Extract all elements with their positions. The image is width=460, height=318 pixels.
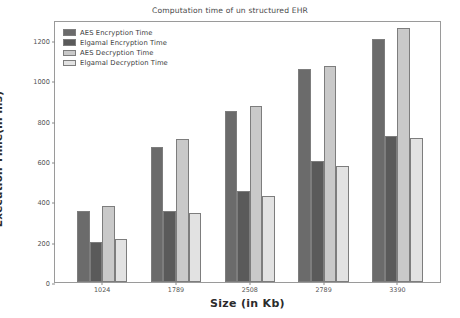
bar (77, 211, 90, 282)
x-tick-mark (102, 282, 103, 285)
legend-swatch-icon (63, 50, 76, 57)
legend-label: Elgamal Encryption Time (80, 39, 167, 47)
legend-item[interactable]: AES Encryption Time (63, 28, 168, 37)
y-tick-label: 0 (46, 280, 50, 288)
bar (385, 136, 398, 282)
y-tick-label: 400 (37, 199, 50, 207)
x-tick-mark (249, 282, 250, 285)
y-tick-mark (52, 42, 55, 43)
legend-item[interactable]: Elgamal Encryption Time (63, 38, 168, 47)
bar (90, 242, 103, 282)
legend-item[interactable]: AES Decryption Time (63, 48, 168, 57)
bar (102, 206, 115, 282)
bar (410, 138, 423, 282)
x-tick-label: 3390 (389, 286, 405, 294)
legend-swatch-icon (63, 60, 76, 67)
legend-label: Elgamal Decryption Time (80, 59, 168, 67)
bar (176, 139, 189, 282)
x-tick-mark (176, 282, 177, 285)
chart-legend: AES Encryption TimeElgamal Encryption Ti… (63, 28, 168, 68)
x-tick-label: 2789 (315, 286, 331, 294)
legend-label: AES Encryption Time (80, 29, 153, 37)
bar (225, 111, 238, 282)
legend-item[interactable]: Elgamal Decryption Time (63, 59, 168, 68)
bar (189, 213, 202, 282)
bar (151, 147, 164, 282)
y-tick-label: 200 (37, 240, 50, 248)
legend-label: AES Decryption Time (80, 49, 153, 57)
bar (324, 66, 337, 282)
y-tick-label: 1200 (33, 38, 50, 46)
y-tick-mark (52, 203, 55, 204)
bar (115, 239, 128, 282)
y-tick-mark (52, 82, 55, 83)
x-tick-mark (397, 282, 398, 285)
y-tick-label: 1000 (33, 78, 50, 86)
legend-swatch-icon (63, 39, 76, 46)
bar (250, 106, 263, 282)
bar (262, 196, 275, 282)
y-tick-label: 600 (37, 159, 50, 167)
bar (311, 161, 324, 282)
y-tick-mark (52, 284, 55, 285)
bar (298, 69, 311, 282)
plot-frame: 0200400600800100012001024178925082789339… (54, 21, 441, 283)
y-tick-mark (52, 122, 55, 123)
legend-swatch-icon (63, 29, 76, 36)
bar (237, 191, 250, 282)
x-tick-label: 1789 (168, 286, 184, 294)
bar (372, 39, 385, 282)
y-axis-label: Execution Time(in ms) (0, 91, 4, 227)
chart-title: Computation time of un structured EHR (0, 6, 460, 15)
x-tick-mark (323, 282, 324, 285)
x-axis-label: Size (in Kb) (54, 297, 441, 310)
bar (163, 211, 176, 282)
y-tick-label: 800 (37, 119, 50, 127)
y-tick-mark (52, 163, 55, 164)
bar-chart-figure: Computation time of un structured EHR Ex… (0, 0, 460, 318)
bar (336, 166, 349, 282)
x-tick-label: 2508 (242, 286, 258, 294)
x-tick-label: 1024 (94, 286, 110, 294)
bar (397, 28, 410, 282)
y-tick-mark (52, 243, 55, 244)
